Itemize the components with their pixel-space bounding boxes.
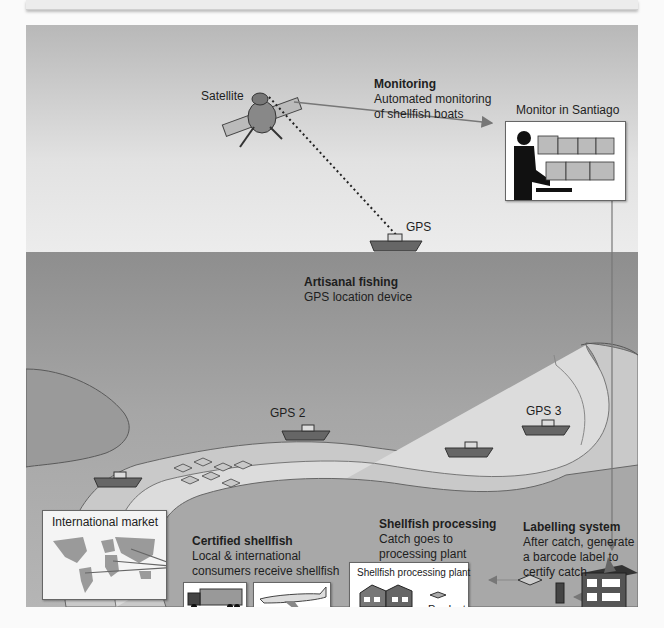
- processing-plant-icon: [350, 563, 468, 607]
- monitor-box: [505, 121, 626, 201]
- labelling-line2: a barcode label to: [523, 550, 634, 565]
- gps-boat-label: GPS: [406, 220, 431, 235]
- processing-title: Shellfish processing: [379, 517, 496, 532]
- monitoring-line2: of shellfish boats: [374, 107, 491, 122]
- labelling-title: Labelling system: [523, 520, 634, 535]
- certified-line2: consumers receive shellfish: [192, 564, 339, 579]
- airplane-icon: [254, 583, 330, 607]
- processing-line1: Catch goes to: [379, 532, 496, 547]
- certified-text: Certified shellfish Local & internationa…: [192, 534, 339, 579]
- diagram-panel: Satellite Monitoring Automated monitorin…: [26, 25, 638, 607]
- gps2-label: GPS 2: [270, 406, 305, 421]
- barcode-scanner-icon: [556, 583, 564, 603]
- certified-title: Certified shellfish: [192, 534, 339, 549]
- monitoring-line1: Automated monitoring: [374, 92, 491, 107]
- artisanal-text: Artisanal fishing GPS location device: [304, 275, 412, 305]
- left-landmass: [26, 369, 129, 467]
- certified-line1: Local & international: [192, 549, 339, 564]
- product-label: Product: [428, 603, 466, 607]
- labelling-text: Labelling system After catch, generate a…: [523, 520, 634, 580]
- operator-with-screens-icon: [506, 122, 625, 200]
- airplane-box: [253, 582, 331, 607]
- satellite-label: Satellite: [201, 89, 244, 104]
- labelling-line1: After catch, generate: [523, 535, 634, 550]
- product-icon: [430, 592, 446, 598]
- monitoring-text: Monitoring Automated monitoring of shell…: [374, 77, 491, 122]
- monitoring-title: Monitoring: [374, 77, 491, 92]
- monitor-label: Monitor in Santiago: [516, 103, 619, 118]
- top-strip: [26, 0, 638, 10]
- boat-icon: [370, 234, 422, 251]
- world-map-icon: [43, 511, 166, 599]
- international-market-box: International market: [42, 510, 167, 600]
- processing-line2: processing plant: [379, 547, 496, 562]
- artisanal-title: Artisanal fishing: [304, 275, 412, 290]
- truck-icon: [184, 583, 246, 607]
- truck-box: [183, 582, 247, 607]
- artisanal-line1: GPS location device: [304, 290, 412, 305]
- processing-text: Shellfish processing Catch goes to proce…: [379, 517, 496, 562]
- processing-plant-box: Shellfish processing plant Product: [349, 562, 469, 607]
- labelling-line3: certify catch: [523, 565, 634, 580]
- boat-icon: [282, 425, 330, 440]
- gps3-label: GPS 3: [526, 404, 561, 419]
